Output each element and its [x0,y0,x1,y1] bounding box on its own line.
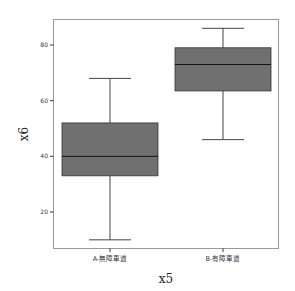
iqr-box [62,123,158,176]
y-axis-title: x6 [17,127,31,141]
y-tick-label: 20 [40,208,48,215]
iqr-box [175,48,271,91]
y-tick-label: 60 [40,97,48,104]
x-category-label: A-無障車道 [93,254,128,263]
y-axis-ticks: 20406080 [40,41,53,215]
x-axis-title: x5 [159,272,173,286]
x-axis-ticks: A-無障車道B-有障車道 [93,249,241,264]
y-tick-label: 40 [40,152,48,159]
y-tick-label: 80 [40,41,48,48]
x-category-label: B-有障車道 [206,254,241,263]
boxplot-chart: 20406080 A-無障車道B-有障車道 x5 x6 [0,0,295,291]
